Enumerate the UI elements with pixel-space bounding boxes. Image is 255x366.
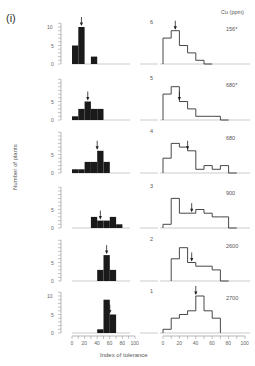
y-axis-label: Number of plants bbox=[12, 144, 18, 190]
histogram-bar-filled bbox=[91, 109, 97, 120]
x-tick-label-right: 40 bbox=[193, 340, 199, 346]
row-number: 3 bbox=[150, 183, 153, 189]
cu-ppm-header: Cu (ppm) bbox=[221, 9, 244, 15]
y-tick-label: 5 bbox=[51, 43, 54, 49]
histogram-bar-filled bbox=[97, 221, 103, 228]
y-tick-label: 0 bbox=[51, 170, 54, 176]
y-tick-label: 10 bbox=[47, 24, 53, 30]
histogram-bar-filled bbox=[110, 217, 116, 228]
x-tick-label-left: 40 bbox=[94, 340, 100, 346]
cu-concentration: 680* bbox=[226, 82, 237, 88]
histogram-outline bbox=[163, 143, 237, 173]
cu-concentration: 900 bbox=[226, 190, 235, 196]
cu-concentration: 2700 bbox=[226, 295, 238, 301]
cu-concentration: 2600 bbox=[226, 243, 238, 249]
x-tick-label-right: 100 bbox=[241, 340, 249, 346]
histogram-bar-filled bbox=[97, 270, 103, 281]
histogram-outline bbox=[163, 296, 220, 333]
y-tick-label: 5 bbox=[51, 99, 54, 105]
histogram-bar-filled bbox=[97, 151, 103, 173]
row-number: 2 bbox=[150, 236, 153, 242]
mean-arrow-right-head bbox=[190, 209, 193, 213]
histogram-bar-filled bbox=[104, 221, 110, 228]
histogram-bar-filled bbox=[91, 217, 97, 228]
mean-arrow-right-head bbox=[194, 292, 197, 296]
cu-concentration: 156* bbox=[226, 26, 237, 32]
x-tick-label-right: 60 bbox=[209, 340, 215, 346]
histogram-bar-filled bbox=[91, 162, 97, 173]
histogram-bar-filled bbox=[104, 255, 110, 281]
histogram-bar-filled bbox=[110, 315, 116, 334]
histogram-bar-filled bbox=[104, 300, 110, 333]
histogram-bar-filled bbox=[85, 162, 91, 173]
y-tick-label: 10 bbox=[47, 293, 53, 299]
x-tick-label-left: 80 bbox=[119, 340, 125, 346]
x-tick-label-right: 80 bbox=[226, 340, 232, 346]
histogram-bar-filled bbox=[78, 27, 84, 64]
y-tick-label: 5 bbox=[51, 152, 54, 158]
x-tick-label-left: 60 bbox=[107, 340, 113, 346]
mean-arrow-right-head bbox=[174, 26, 177, 30]
histogram-bar-filled bbox=[97, 329, 103, 333]
y-tick-label: 0 bbox=[51, 117, 54, 123]
x-tick-label-right: 20 bbox=[176, 340, 182, 346]
y-tick-label: 0 bbox=[51, 278, 54, 284]
x-tick-label-right: 0 bbox=[162, 340, 165, 346]
histogram-bar-filled bbox=[104, 162, 110, 173]
histogram-bar-filled bbox=[78, 169, 84, 173]
histogram-outline bbox=[171, 248, 228, 281]
x-tick-label-left: 0 bbox=[71, 340, 74, 346]
mean-arrow-left-head bbox=[99, 216, 102, 220]
histogram-bar-filled bbox=[116, 224, 122, 228]
mean-arrow-left-head bbox=[86, 97, 89, 101]
row-number: 5 bbox=[150, 75, 153, 81]
mean-arrow-right-head bbox=[178, 97, 181, 101]
row-number: 1 bbox=[150, 288, 153, 294]
row-number: 4 bbox=[150, 128, 153, 134]
y-tick-label: 5 bbox=[51, 207, 54, 213]
histogram-bar-filled bbox=[110, 270, 116, 281]
y-tick-label: 5 bbox=[51, 260, 54, 266]
cu-concentration: 680 bbox=[226, 135, 235, 141]
histogram-bar-filled bbox=[72, 169, 78, 173]
histogram-outline bbox=[163, 87, 229, 120]
histogram-outline bbox=[163, 198, 237, 228]
mean-arrow-right-head bbox=[186, 146, 189, 150]
x-tick-label-left: 20 bbox=[82, 340, 88, 346]
panel-label: (i) bbox=[6, 12, 16, 24]
mean-arrow-right-head bbox=[190, 258, 193, 262]
row-number: 6 bbox=[150, 19, 153, 25]
histogram-bar-filled bbox=[85, 102, 91, 121]
mean-arrow-left-head bbox=[80, 23, 83, 27]
mean-arrow-left-head bbox=[105, 251, 108, 255]
x-tick-label-left: 100 bbox=[131, 340, 139, 346]
histogram-outline bbox=[163, 31, 212, 64]
histogram-bar-filled bbox=[72, 116, 78, 120]
x-axis-label: Index of tolerance bbox=[100, 352, 148, 358]
y-tick-label: 0 bbox=[51, 330, 54, 336]
histogram-bar-filled bbox=[72, 46, 78, 65]
figure-canvas bbox=[0, 0, 255, 366]
histogram-bar-filled bbox=[91, 57, 97, 64]
mean-arrow-left-head bbox=[96, 146, 99, 150]
y-tick-label: 0 bbox=[51, 225, 54, 231]
y-tick-label: 5 bbox=[51, 312, 54, 318]
y-tick-label: 0 bbox=[51, 61, 54, 67]
histogram-bar-filled bbox=[78, 109, 84, 120]
histogram-bar-filled bbox=[97, 109, 103, 120]
